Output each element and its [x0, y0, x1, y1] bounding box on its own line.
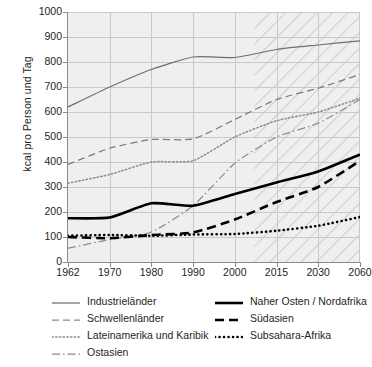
- series-line: [68, 41, 360, 107]
- chart-legend: IndustrieländerSchwellenländerLateinamer…: [0, 292, 372, 367]
- y-tick-label: 200: [22, 205, 62, 217]
- y-tick-label: 500: [22, 130, 62, 142]
- y-tick-mark: [63, 12, 68, 13]
- series-line: [68, 98, 360, 183]
- legend-line-swatch: [215, 297, 243, 309]
- legend-line-swatch: [215, 331, 243, 343]
- y-tick-label: 700: [22, 80, 62, 92]
- legend-item-label: Subsahara-Afrika: [250, 329, 331, 341]
- y-tick-mark: [63, 112, 68, 113]
- x-tick-label: 1970: [87, 266, 133, 278]
- legend-column-right: Naher Osten / NordafrikaSüdasienSubsahar…: [215, 292, 372, 343]
- y-tick-mark: [63, 137, 68, 138]
- legend-item-label: Industrieländer: [87, 295, 156, 307]
- x-tick-label: 1980: [128, 266, 174, 278]
- y-tick-mark: [63, 37, 68, 38]
- legend-line-swatch: [52, 331, 80, 343]
- legend-swatch: [52, 312, 80, 324]
- legend-item-label: Naher Osten / Nordafrika: [250, 295, 367, 307]
- y-tick-mark: [63, 162, 68, 163]
- y-tick-label: 100: [22, 230, 62, 242]
- x-axis-line: [67, 262, 361, 263]
- chart-container: kcal pro Person und Tag 0100200300400500…: [0, 0, 372, 367]
- x-tick-label: 2060: [337, 266, 372, 278]
- plot-area-wrapper: kcal pro Person und Tag 0100200300400500…: [0, 0, 372, 285]
- legend-item-label: Ostasien: [87, 346, 128, 358]
- y-tick-label: 300: [22, 180, 62, 192]
- y-tick-mark: [63, 237, 68, 238]
- legend-item[interactable]: Industrieländer: [52, 292, 242, 309]
- x-tick-label: 1990: [170, 266, 216, 278]
- x-tick-mark: [360, 263, 361, 267]
- legend-item[interactable]: Naher Osten / Nordafrika: [215, 292, 372, 309]
- y-tick-mark: [63, 187, 68, 188]
- legend-item[interactable]: Lateinamerika und Karibik: [52, 326, 242, 343]
- x-tick-label: 2030: [295, 266, 341, 278]
- legend-item-label: Schwellenländer: [87, 312, 164, 324]
- x-tick-label: 2015: [254, 266, 300, 278]
- x-tick-label: 1962: [45, 266, 91, 278]
- x-tick-mark: [235, 263, 236, 267]
- y-tick-mark: [63, 62, 68, 63]
- series-lines: [68, 12, 360, 262]
- y-tick-mark: [63, 212, 68, 213]
- y-tick-label: 900: [22, 30, 62, 42]
- legend-swatch: [215, 312, 243, 324]
- legend-item[interactable]: Subsahara-Afrika: [215, 326, 372, 343]
- x-tick-mark: [193, 263, 194, 267]
- series-line: [68, 75, 360, 165]
- legend-line-swatch: [52, 314, 80, 326]
- legend-item-label: Lateinamerika und Karibik: [87, 329, 208, 341]
- x-tick-label: 2000: [212, 266, 258, 278]
- y-tick-label: 600: [22, 105, 62, 117]
- y-tick-label: 800: [22, 55, 62, 67]
- legend-column-left: IndustrieländerSchwellenländerLateinamer…: [52, 292, 242, 360]
- legend-swatch: [52, 329, 80, 341]
- x-tick-mark: [151, 263, 152, 267]
- legend-swatch: [52, 346, 80, 358]
- x-tick-mark: [277, 263, 278, 267]
- legend-swatch: [215, 329, 243, 341]
- legend-line-swatch: [215, 314, 243, 326]
- legend-swatch: [215, 295, 243, 307]
- x-tick-mark: [110, 263, 111, 267]
- series-line: [68, 155, 360, 219]
- y-tick-label: 1000: [22, 5, 62, 17]
- x-tick-mark: [68, 263, 69, 267]
- y-tick-mark: [63, 87, 68, 88]
- legend-line-swatch: [52, 297, 80, 309]
- legend-item[interactable]: Ostasien: [52, 343, 242, 360]
- legend-item-label: Südasien: [250, 312, 294, 324]
- legend-item[interactable]: Südasien: [215, 309, 372, 326]
- legend-swatch: [52, 295, 80, 307]
- plot-area: [68, 12, 360, 262]
- legend-line-swatch: [52, 348, 80, 360]
- y-tick-label: 400: [22, 155, 62, 167]
- x-tick-mark: [318, 263, 319, 267]
- legend-item[interactable]: Schwellenländer: [52, 309, 242, 326]
